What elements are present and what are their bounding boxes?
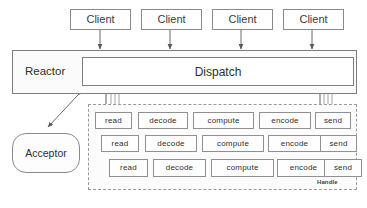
client-label-3: Client <box>228 14 256 25</box>
handle-row-3-stage-read[interactable]: read <box>109 159 148 177</box>
handle-row-3-stage-compute[interactable]: compute <box>211 159 274 177</box>
stage-label: encode <box>281 140 308 148</box>
handle-row-2-stage-encode[interactable]: encode <box>268 135 321 152</box>
handle-row-1-stage-compute[interactable]: compute <box>193 112 254 129</box>
diagram-canvas: Client Client Client Client Reactor Disp… <box>0 0 367 208</box>
client-box-4[interactable]: Client <box>283 9 344 30</box>
client-box-3[interactable]: Client <box>212 9 273 30</box>
client-label-4: Client <box>299 14 327 25</box>
handle-row-1-stage-encode[interactable]: encode <box>259 112 311 129</box>
handle-row-1-stage-decode[interactable]: decode <box>138 112 188 129</box>
acceptor-box[interactable]: Acceptor <box>12 133 80 173</box>
stage-label: send <box>329 140 347 148</box>
handle-row-3-stage-decode[interactable]: decode <box>153 159 206 177</box>
stage-label: encode <box>290 164 317 172</box>
handle-row-2-stage-decode[interactable]: decode <box>145 135 197 152</box>
client-label-2: Client <box>157 14 185 25</box>
handle-row-3-stage-encode[interactable]: encode <box>277 159 330 177</box>
handle-row-2-stage-read[interactable]: read <box>101 135 139 152</box>
stage-label: compute <box>217 140 249 148</box>
stage-label: decode <box>157 140 184 148</box>
stage-label: read <box>112 140 129 148</box>
stage-label: read <box>120 164 137 172</box>
handle-row-3-stage-send[interactable]: send <box>324 159 362 177</box>
handle-row-2-stage-compute[interactable]: compute <box>202 135 264 152</box>
stage-label: decode <box>166 164 193 172</box>
client-box-2[interactable]: Client <box>141 9 202 30</box>
client-box-1[interactable]: Client <box>70 9 131 30</box>
stage-label: read <box>105 117 122 125</box>
dispatch-label: Dispatch <box>195 66 242 78</box>
client-label-1: Client <box>86 14 114 25</box>
stage-label: encode <box>271 117 298 125</box>
stage-label: send <box>334 164 352 172</box>
stage-label: decode <box>149 117 176 125</box>
acceptor-label: Acceptor <box>25 148 66 159</box>
stage-label: send <box>324 117 342 125</box>
handle-label: Handle <box>317 179 338 185</box>
handle-row-1-stage-send[interactable]: send <box>315 112 351 129</box>
reactor-label: Reactor <box>25 66 65 78</box>
stage-label: compute <box>226 164 258 172</box>
dispatch-box[interactable]: Dispatch <box>82 57 354 86</box>
handle-row-2-stage-send[interactable]: send <box>320 135 357 152</box>
stage-label: compute <box>207 117 239 125</box>
arrow-reactor-acceptor <box>48 95 78 127</box>
handle-row-1-stage-read[interactable]: read <box>95 112 132 129</box>
